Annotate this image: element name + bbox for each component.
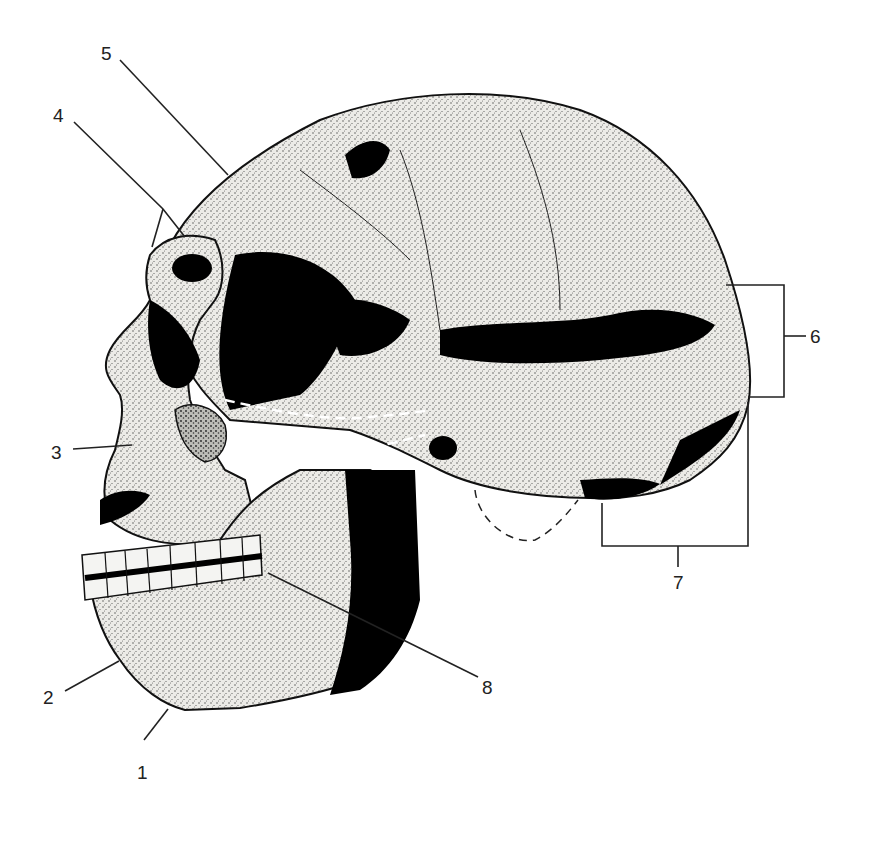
cranium: [165, 94, 750, 499]
callout-label-1: 1: [137, 763, 148, 782]
callout-label-4: 4: [53, 106, 64, 125]
callout-label-6: 6: [810, 327, 821, 346]
callout-label-7: 7: [673, 573, 684, 592]
callout-label-3: 3: [51, 443, 62, 462]
callout-label-5: 5: [101, 44, 112, 63]
skull-diagram: 1 2 3 4 5 6 7 8: [0, 0, 869, 852]
callout-label-8: 8: [482, 678, 493, 697]
callout-label-2: 2: [43, 688, 54, 707]
skull-illustration: [0, 0, 869, 852]
